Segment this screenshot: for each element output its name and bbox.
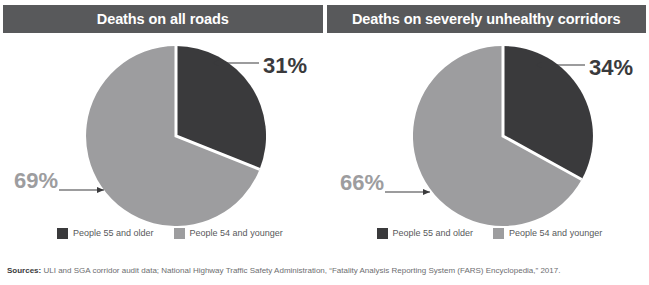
value-label-left-light: 69% [14, 170, 58, 192]
chart-panels: People 55 and older People 54 and younge… [0, 33, 649, 251]
pie-chart-right [413, 46, 593, 226]
value-label-left-dark: 31% [263, 55, 307, 77]
panel-title-right: Deaths on severely unhealthy corridors [352, 12, 621, 27]
legend-left: People 55 and older People 54 and younge… [57, 225, 283, 241]
value-label-right-dark: 34% [589, 57, 633, 79]
legend-label-younger-left: People 54 and younger [190, 229, 283, 238]
legend-swatch-dark-icon [57, 228, 68, 239]
legend-label-younger-right: People 54 and younger [509, 229, 602, 238]
pie-svg-left [86, 46, 266, 226]
header-bar-left: Deaths on all roads [3, 5, 323, 33]
panel-headers: Deaths on all roads Deaths on severely u… [3, 5, 646, 33]
sources-text: ULI and SGA corridor audit data; Nationa… [41, 266, 560, 275]
legend-label-older-right: People 55 and older [393, 229, 474, 238]
legend-item-younger-left: People 54 and younger [174, 228, 283, 239]
header-bar-right: Deaths on severely unhealthy corridors [327, 5, 647, 33]
legend-swatch-light-icon [493, 228, 504, 239]
legend-item-older-right: People 55 and older [377, 228, 474, 239]
legend-item-older-left: People 55 and older [57, 228, 154, 239]
panel-title-left: Deaths on all roads [97, 12, 229, 27]
legend-swatch-light-icon [174, 228, 185, 239]
sources-label: Sources: [7, 266, 41, 275]
legend-item-younger-right: People 54 and younger [493, 228, 602, 239]
legend-right: People 55 and older People 54 and younge… [377, 225, 603, 241]
legend-swatch-dark-icon [377, 228, 388, 239]
legend-label-older-left: People 55 and older [73, 229, 154, 238]
pie-chart-left [86, 46, 266, 226]
pie-svg-right [413, 46, 593, 226]
value-label-right-light: 66% [340, 172, 384, 194]
sources-footnote: Sources: ULI and SGA corridor audit data… [7, 266, 647, 276]
